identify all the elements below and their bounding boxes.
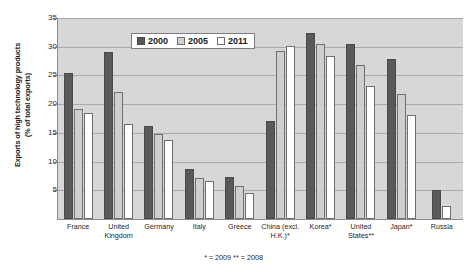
bar-2011 xyxy=(84,113,93,219)
x-axis-label: Russia xyxy=(416,223,467,232)
bar-group xyxy=(381,18,421,219)
bar-2000 xyxy=(225,177,234,219)
x-label-line: States** xyxy=(335,232,387,241)
legend: 2000 2005 2011 xyxy=(131,33,255,49)
bar-2000 xyxy=(387,59,396,219)
bar-2000 xyxy=(64,73,73,219)
footnote: * = 2009 ** = 2008 xyxy=(0,253,467,262)
bar-2000 xyxy=(144,126,153,219)
x-label-line: H.K.)* xyxy=(254,232,306,241)
bar-2000 xyxy=(185,169,194,219)
bar-2005 xyxy=(276,51,285,219)
legend-label-2011: 2011 xyxy=(228,36,248,46)
bar-2000 xyxy=(104,52,113,219)
legend-label-2005: 2005 xyxy=(188,36,208,46)
bar-2011 xyxy=(407,115,416,219)
bar-2011 xyxy=(326,56,335,219)
bar-2005 xyxy=(114,92,123,219)
bar-2000 xyxy=(346,44,355,219)
bar-group xyxy=(422,18,462,219)
bar-2000 xyxy=(266,121,275,219)
y-axis: 5101520253035 xyxy=(22,0,57,230)
y-axis-title-line1: Exports of high technology products xyxy=(13,43,22,167)
legend-swatch-2011-icon xyxy=(217,37,225,45)
bar-2011 xyxy=(124,124,133,219)
bar-2005 xyxy=(235,186,244,219)
legend-swatch-2000-icon xyxy=(137,37,145,45)
bar-groups xyxy=(58,18,462,219)
bar-2000 xyxy=(306,33,315,219)
bar-2011 xyxy=(164,140,173,219)
bar-2011 xyxy=(245,193,254,219)
bar-group xyxy=(260,18,300,219)
bar-2005 xyxy=(316,44,325,219)
legend-item-2000: 2000 xyxy=(137,36,168,46)
bar-2011 xyxy=(366,86,375,219)
bar-2011 xyxy=(205,181,214,219)
legend-item-2005: 2005 xyxy=(177,36,208,46)
bar-2011 xyxy=(286,46,295,219)
x-axis-labels: FranceUnitedKingdomGermanyItalyGreeceChi… xyxy=(58,223,462,253)
bar-2011 xyxy=(442,206,451,219)
bar-2000 xyxy=(432,190,441,219)
x-label-line: Kingdom xyxy=(92,232,144,241)
high-tech-exports-bar-chart: Exports of high technology products (% o… xyxy=(0,0,467,267)
bar-2005 xyxy=(397,94,406,219)
bar-group xyxy=(341,18,381,219)
x-label-line: Russia xyxy=(416,223,467,232)
legend-item-2011: 2011 xyxy=(217,36,248,46)
legend-swatch-2005-icon xyxy=(177,37,185,45)
bar-group xyxy=(300,18,340,219)
bar-2005 xyxy=(154,134,163,219)
bar-group xyxy=(58,18,98,219)
bar-2005 xyxy=(74,109,83,219)
legend-label-2000: 2000 xyxy=(148,36,168,46)
bar-2005 xyxy=(195,178,204,219)
bar-2005 xyxy=(356,65,365,219)
